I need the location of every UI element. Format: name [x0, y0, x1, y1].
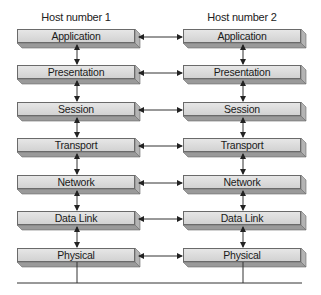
layer-label: Physical [17, 248, 135, 262]
layer-label: Data Link [17, 211, 135, 225]
layer-application-host-2: Application [183, 29, 301, 43]
host-1-label: Host number 1 [6, 11, 146, 23]
layer-label: Network [183, 175, 301, 189]
layer-label: Data Link [183, 211, 301, 225]
layer-network-host-2: Network [183, 175, 301, 189]
layer-presentation-host-1: Presentation [17, 65, 135, 79]
layer-label: Application [183, 29, 301, 43]
layer-label: Presentation [183, 65, 301, 79]
layer-session-host-2: Session [183, 102, 301, 116]
layer-label: Transport [183, 138, 301, 152]
layer-transport-host-2: Transport [183, 138, 301, 152]
host-2-label: Host number 2 [172, 11, 312, 23]
layer-label: Session [183, 102, 301, 116]
layer-network-host-1: Network [17, 175, 135, 189]
layer-data-link-host-2: Data Link [183, 211, 301, 225]
layer-label: Transport [17, 138, 135, 152]
layer-transport-host-1: Transport [17, 138, 135, 152]
layer-presentation-host-2: Presentation [183, 65, 301, 79]
layer-physical-host-1: Physical [17, 248, 135, 262]
layer-label: Network [17, 175, 135, 189]
layer-label: Session [17, 102, 135, 116]
layer-session-host-1: Session [17, 102, 135, 116]
layer-label: Physical [183, 248, 301, 262]
layer-physical-host-2: Physical [183, 248, 301, 262]
layer-label: Application [17, 29, 135, 43]
layer-application-host-1: Application [17, 29, 135, 43]
layer-data-link-host-1: Data Link [17, 211, 135, 225]
layer-label: Presentation [17, 65, 135, 79]
